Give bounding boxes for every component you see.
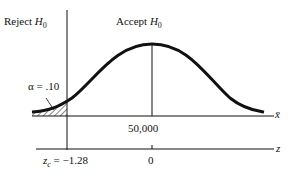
xbar-axis-label: x̄ [275,108,280,120]
zero-label: 0 [148,154,154,166]
alpha-label: α = .10 [28,80,59,92]
reject-h0-label: Reject H0 [4,15,47,32]
mean-label: 50,000 [128,122,158,134]
critical-z-label: zc = −1.28 [43,154,88,171]
accept-h0-label: Accept H0 [116,15,162,32]
z-axis-label: z [276,142,280,154]
